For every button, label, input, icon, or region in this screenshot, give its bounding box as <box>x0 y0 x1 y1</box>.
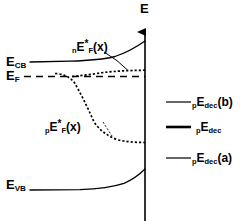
energy-axis-label: E <box>140 2 149 15</box>
valence-band-label-base: E <box>6 177 15 192</box>
conduction-band-label-base: E <box>6 54 15 69</box>
valence-band-label: EVB <box>6 178 26 191</box>
legend-label-p-edec-base: E <box>201 120 209 134</box>
legend-label-p-edec-b-arg: (b) <box>217 95 232 109</box>
hole-quasi-fermi-label-base: E <box>50 120 58 134</box>
band-diagram-canvas <box>0 0 243 221</box>
legend-label-p-edec-b: pEdec(b) <box>192 96 233 108</box>
legend-label-p-edec-b-sub: dec <box>205 101 218 110</box>
electron-quasi-fermi-label-sub: F <box>89 46 94 55</box>
legend-label-p-edec-sub: dec <box>209 126 222 135</box>
valence-band-curve <box>30 169 145 190</box>
legend-label-p-edec-a-sub: dec <box>205 157 218 166</box>
electron-quasi-fermi-label-star: * <box>85 38 89 49</box>
electron-quasi-fermi-label-base: E <box>77 40 85 54</box>
hole-quasi-fermi-label-star: * <box>58 118 62 129</box>
conduction-band-label: ECB <box>6 55 26 68</box>
electron-quasi-fermi-label-pre: n <box>72 46 77 55</box>
electron-quasi-fermi-label: nE*F(x) <box>72 38 108 53</box>
legend-label-p-edec: pEdec <box>196 121 221 133</box>
legend-label-p-edec-a-pre: p <box>192 157 197 166</box>
valence-band-label-sub: VB <box>15 184 26 193</box>
fermi-level-label-base: E <box>6 68 15 83</box>
legend-label-p-edec-b-pre: p <box>192 101 197 110</box>
legend-label-p-edec-a-base: E <box>197 151 205 165</box>
legend-label-p-edec-a-arg: (a) <box>217 151 232 165</box>
hole-quasi-fermi-label-pre: p <box>45 126 50 135</box>
hole-quasi-fermi-label-arg: (x) <box>66 120 81 134</box>
legend-label-p-edec-b-base: E <box>197 95 205 109</box>
hole-quasi-fermi-label-sub: F <box>62 126 67 135</box>
electron-quasi-fermi-label-arg: (x) <box>93 40 108 54</box>
electron-quasi-fermi-curve <box>72 70 145 76</box>
electron-quasi-fermi-leader <box>104 52 128 71</box>
band-diagram-figure: E ECB EF EVB nE*F(x) pE*F(x) pEdec(b) pE… <box>0 0 243 221</box>
fermi-level-label-sub: F <box>15 75 20 84</box>
legend-label-p-edec-a: pEdec(a) <box>192 152 232 164</box>
hole-quasi-fermi-label: pE*F(x) <box>45 118 81 133</box>
legend-label-p-edec-pre: p <box>196 126 201 135</box>
fermi-level-label: EF <box>6 69 20 82</box>
